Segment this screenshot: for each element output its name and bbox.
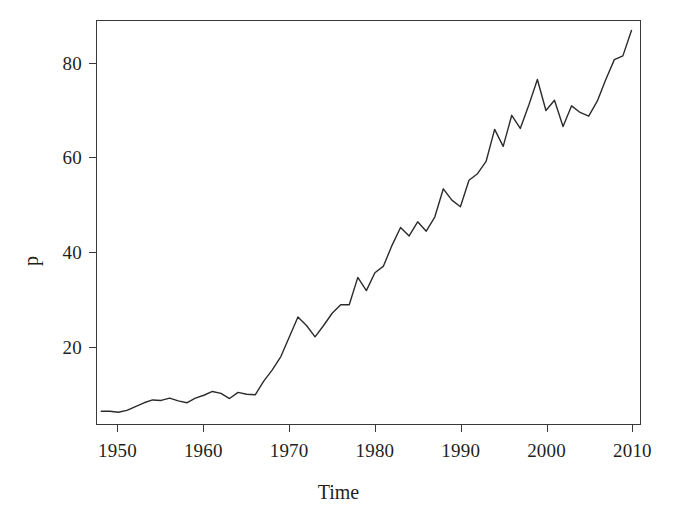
y-tick-label: 40	[63, 243, 82, 262]
x-tick-mark	[289, 425, 290, 432]
x-tick-label: 1970	[270, 441, 309, 460]
y-tick-label: 60	[63, 148, 82, 167]
y-tick-label: 80	[63, 53, 82, 72]
x-tick-mark	[203, 425, 204, 432]
y-tick-mark	[89, 63, 96, 64]
x-tick-label: 2010	[613, 441, 652, 460]
x-tick-mark	[375, 425, 376, 432]
y-tick-mark	[89, 252, 96, 253]
x-tick-mark	[632, 425, 633, 432]
chart-figure: 20406080 1950196019701980199020002010 p …	[0, 0, 677, 521]
y-tick-label: 20	[63, 337, 82, 356]
plot-area	[96, 20, 641, 425]
series-line	[101, 30, 631, 412]
x-tick-label: 1990	[441, 441, 480, 460]
x-tick-label: 2000	[527, 441, 566, 460]
y-tick-mark	[89, 347, 96, 348]
y-tick-mark	[89, 157, 96, 158]
x-tick-label: 1960	[184, 441, 223, 460]
y-axis-title: p	[21, 256, 41, 266]
x-tick-mark	[117, 425, 118, 432]
x-axis-title: Time	[0, 482, 677, 502]
x-tick-label: 1950	[98, 441, 137, 460]
line-series	[97, 21, 640, 424]
x-tick-mark	[547, 425, 548, 432]
x-tick-mark	[461, 425, 462, 432]
x-tick-label: 1980	[356, 441, 395, 460]
